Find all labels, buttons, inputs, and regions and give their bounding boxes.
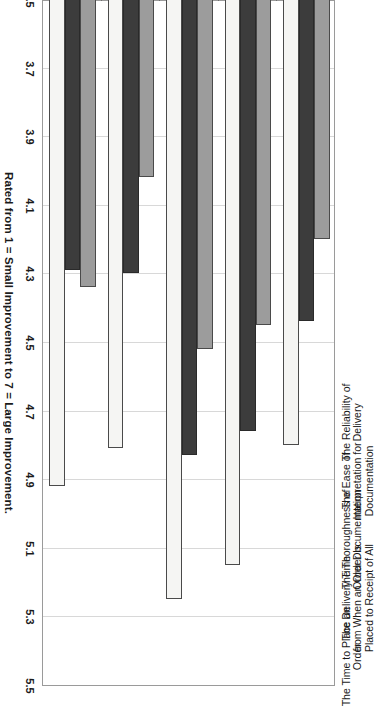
bar <box>256 0 272 325</box>
bar <box>166 0 182 599</box>
plot-area <box>42 0 335 686</box>
bar-group <box>277 1 336 685</box>
category-label-line: Documentation <box>364 446 375 517</box>
bar <box>123 0 139 273</box>
bar <box>283 0 299 445</box>
category-label: The Reliability ofDelivery <box>341 393 362 452</box>
bar-group <box>219 1 278 685</box>
value-tick-label: 5.3 <box>18 597 42 637</box>
value-tick-label: 5.1 <box>18 529 42 569</box>
bar <box>49 0 65 486</box>
bar-group <box>102 1 161 685</box>
bar <box>299 0 315 321</box>
bar <box>182 0 198 455</box>
bar-group <box>43 1 102 685</box>
category-tick <box>159 0 160 1</box>
category-tick <box>218 0 219 1</box>
value-tick-label: 3.7 <box>18 49 42 89</box>
bar <box>225 0 241 565</box>
category-tick <box>276 0 277 1</box>
bar <box>108 0 124 448</box>
category-axis-labels: The Time to Place anOrderThe Delivery Ti… <box>341 0 362 686</box>
bar <box>240 0 256 431</box>
bar <box>80 0 96 287</box>
bar <box>197 0 213 349</box>
value-tick-label: 3.5 <box>18 0 42 20</box>
bar <box>139 0 155 177</box>
value-tick-label: 4.7 <box>18 392 42 432</box>
value-tick-label: 4.1 <box>18 186 42 226</box>
value-tick-label: 4.5 <box>18 323 42 363</box>
category-label-line: Placed to Receipt of All <box>364 544 375 652</box>
value-tick-label: 4.3 <box>18 254 42 294</box>
category-label-line: Delivery <box>352 403 363 441</box>
value-axis-title: Rated from 1 = Small Improvement to 7 = … <box>0 0 18 686</box>
value-axis-tick-labels: 5.55.35.14.94.74.54.34.13.93.73.5 <box>18 0 42 686</box>
value-tick-label: 4.9 <box>18 460 42 500</box>
bar <box>65 0 81 270</box>
category-tick <box>101 0 102 1</box>
bar-group <box>160 1 219 685</box>
value-tick-label: 5.5 <box>18 666 42 706</box>
value-tick-label: 3.9 <box>18 117 42 157</box>
bar <box>314 0 330 239</box>
